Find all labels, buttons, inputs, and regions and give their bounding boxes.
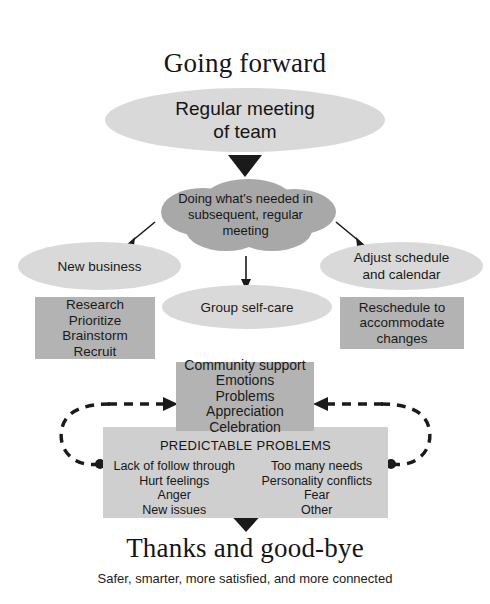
node-group-self-care: Group self-care [162,285,332,329]
heading-thanks-and-goodbye: Thanks and good-bye [0,531,490,565]
node-regular-meeting-text: Regular meetingof team [105,97,385,143]
tagline-text: Safer, smarter, more satisfied, and more… [0,571,490,586]
node-reschedule-box-text: Reschedule toaccommodatechanges [340,300,464,347]
predictable-problems-left-column: Lack of follow throughHurt feelingsAnger… [106,459,243,517]
node-adjust-schedule: Adjust scheduleand calendar [320,242,483,290]
heading-going-forward: Going forward [0,46,490,80]
heading-going-forward-text: Going forward [0,48,490,79]
node-community-support-box-text: Community supportEmotionsProblemsAppreci… [176,358,314,436]
node-research-box-text: ResearchPrioritizeBrainstormRecruit [35,297,155,359]
node-doing-whats-needed: Doing what's needed insubsequent, regula… [148,178,343,252]
node-adjust-schedule-text: Adjust scheduleand calendar [320,249,483,283]
predictable-problems-right-column: Too many needsPersonality conflictsFearO… [248,459,385,517]
tagline: Safer, smarter, more satisfied, and more… [0,568,490,588]
node-research-box: ResearchPrioritizeBrainstormRecruit [35,297,155,359]
predictable-problems-columns: Lack of follow throughHurt feelingsAnger… [103,459,388,517]
node-reschedule-box: Reschedule toaccommodatechanges [340,297,464,349]
node-predictable-problems-box: PREDICTABLE PROBLEMS Lack of follow thro… [103,427,388,518]
predictable-problems-title: PREDICTABLE PROBLEMS [103,438,388,453]
node-regular-meeting: Regular meetingof team [105,88,385,152]
node-new-business-text: New business [18,258,181,275]
heading-thanks-and-goodbye-text: Thanks and good-bye [0,533,490,564]
node-group-self-care-text: Group self-care [162,299,332,316]
node-doing-whats-needed-text: Doing what's needed insubsequent, regula… [148,191,343,239]
node-community-support-box: Community supportEmotionsProblemsAppreci… [176,362,314,431]
diagram-canvas: Going forward Regular meetingof team Doi… [0,0,490,604]
triangle-down-arrow-meeting-to-cloud [228,155,262,177]
